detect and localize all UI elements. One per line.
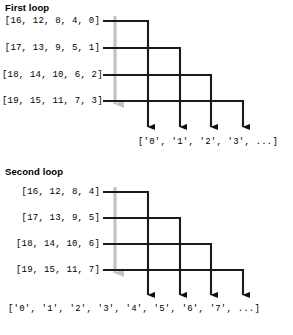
first-loop-wire-3: [103, 101, 243, 127]
loop-diagram-figure: First loop [16, 12, 8, 4, 0] [17, 13, 9,…: [0, 0, 293, 335]
second-loop-wire-3: [103, 270, 243, 295]
diagram-wires: [0, 0, 293, 335]
